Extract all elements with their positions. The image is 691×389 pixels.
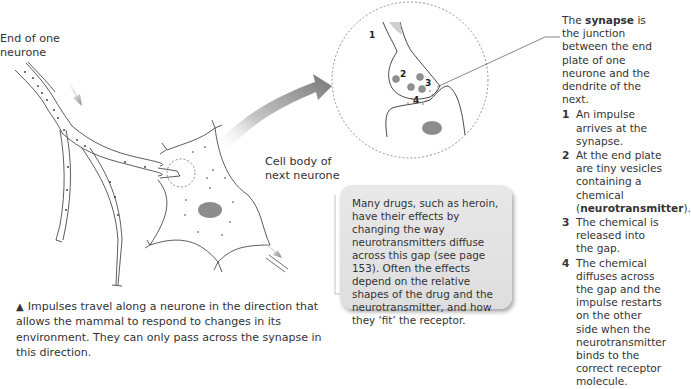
figure-caption: ▲Impulses travel along a neurone in the … — [16, 299, 336, 360]
cell-dots — [184, 146, 234, 236]
number-1: 1 — [369, 30, 375, 40]
term-neurotransmitter: neurotransmitter — [580, 202, 683, 214]
synapse-explanation: The synapse is the junction between the … — [562, 14, 664, 389]
triangle-marker-icon: ▲ — [16, 301, 24, 312]
outgoing-direction-arrow — [258, 237, 282, 258]
magnify-arrow — [220, 74, 332, 150]
step-text: The chemical diffuses across the gap and… — [576, 257, 666, 388]
drugs-note-box: Many drugs, such as heroin, have their e… — [340, 185, 512, 309]
step-number: 4 — [562, 257, 569, 270]
label-line: End of one — [0, 32, 60, 46]
term-synapse: synapse — [585, 14, 634, 26]
impulse-direction-arrow — [66, 80, 82, 106]
axon-dots — [24, 71, 146, 216]
step-3: 3The chemical is released into the gap. — [562, 216, 664, 256]
step-1: 1An impulse arrives at the synapse. — [562, 108, 664, 148]
number-2: 2 — [400, 69, 406, 79]
step-number: 3 — [562, 216, 569, 229]
steps-list: 1An impulse arrives at the synapse. 2At … — [562, 108, 664, 388]
cell-body — [145, 120, 270, 272]
zoom-region-marker — [167, 159, 195, 187]
step-text: ). — [683, 202, 691, 214]
label-end-of-neurone: End of one neurone — [0, 32, 60, 60]
synapse-intro: The synapse is the junction between the … — [562, 14, 664, 106]
dendrite-nucleus — [422, 121, 442, 135]
label-line: neurone — [0, 46, 60, 60]
step-text: An impulse arrives at the synapse. — [576, 108, 647, 146]
label-line: Cell body of — [265, 155, 340, 169]
step-number: 1 — [562, 108, 569, 121]
number-4: 4 — [413, 95, 419, 105]
label-cell-body: Cell body of next neurone — [265, 155, 340, 183]
number-3: 3 — [425, 78, 431, 88]
step-text: The chemical is released into the gap. — [576, 216, 658, 254]
outgoing-axon — [266, 255, 288, 272]
label-line: next neurone — [265, 169, 340, 183]
step-4: 4The chemical diffuses across the gap an… — [562, 257, 664, 389]
step-number: 2 — [562, 149, 569, 162]
nucleus — [198, 202, 222, 218]
axon — [15, 62, 180, 286]
caption-text: Impulses travel along a neurone in the d… — [16, 300, 321, 359]
note-text: Many drugs, such as heroin, have their e… — [352, 197, 498, 326]
intro-text: The — [562, 14, 585, 26]
step-2: 2At the end plate are tiny vesicles cont… — [562, 149, 664, 215]
intro-text: is the junction between the end plate of… — [562, 14, 652, 105]
